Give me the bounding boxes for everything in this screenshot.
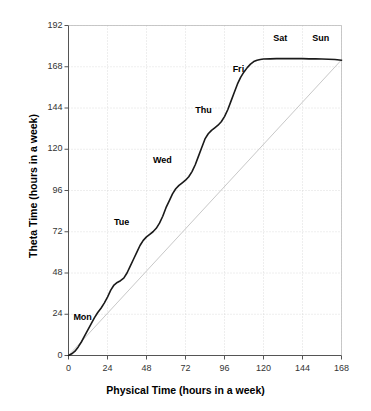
day-label-wed: Wed xyxy=(153,155,172,165)
chart-figure: Theta Time (hours in a week) Physical Ti… xyxy=(0,0,371,411)
day-label-thu: Thu xyxy=(195,105,212,115)
x-tick-label: 72 xyxy=(168,363,204,373)
y-tick-label: 120 xyxy=(29,143,63,153)
tick-marks xyxy=(65,26,342,360)
x-tick-label: 96 xyxy=(207,363,243,373)
y-tick-label: 24 xyxy=(29,308,63,318)
day-label-fri: Fri xyxy=(233,64,245,74)
y-tick-label: 192 xyxy=(29,20,63,30)
x-axis-label: Physical Time (hours in a week) xyxy=(0,384,371,396)
y-tick-label: 144 xyxy=(29,102,63,112)
grid-layer xyxy=(69,26,342,356)
series-layer xyxy=(69,59,342,356)
x-tick-label: 168 xyxy=(324,363,360,373)
y-tick-label: 96 xyxy=(29,185,63,195)
y-tick-label: 72 xyxy=(29,226,63,236)
series-reference-y-x xyxy=(69,60,342,356)
day-label-sat: Sat xyxy=(273,33,287,43)
x-tick-label: 48 xyxy=(129,363,165,373)
day-label-tue: Tue xyxy=(114,217,129,227)
x-tick-label: 0 xyxy=(51,363,87,373)
y-tick-label: 0 xyxy=(29,350,63,360)
plot-frame xyxy=(69,26,342,356)
y-tick-label: 168 xyxy=(29,61,63,71)
day-label-mon: Mon xyxy=(73,312,92,322)
x-tick-label: 24 xyxy=(90,363,126,373)
x-tick-label: 144 xyxy=(285,363,321,373)
y-tick-label: 48 xyxy=(29,267,63,277)
x-tick-label: 120 xyxy=(246,363,282,373)
day-label-sun: Sun xyxy=(312,33,329,43)
